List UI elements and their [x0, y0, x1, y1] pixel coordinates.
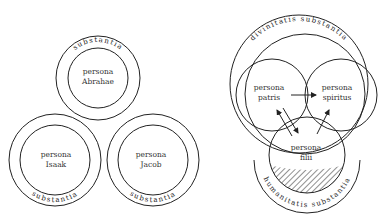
trinity-diagram: substantia persona Abrahae substantia pe… [0, 0, 391, 222]
persona-name: Isaak [46, 160, 67, 169]
filii-label: persona [291, 143, 322, 152]
persona-label: persona [41, 150, 72, 159]
person-isaak: substantia persona Isaak [9, 114, 101, 206]
substantia-label: substantia [128, 190, 177, 204]
arrow-filii-to-patris [277, 110, 292, 136]
trinity-group: divinitatis substantia humanitatis subst… [230, 15, 377, 213]
patris-label: persona [254, 83, 285, 92]
divinitatis-label: divinitatis substantia [249, 15, 350, 42]
person-abrahae: substantia persona Abrahae [56, 36, 140, 120]
persona-name: Abrahae [81, 77, 115, 86]
persona-label: persona [136, 150, 167, 159]
person-jacob: substantia persona Jacob [107, 114, 199, 206]
spiritus-name: spiritus [323, 93, 352, 102]
substantia-label: substantia [30, 190, 79, 204]
patris-name: patris [258, 93, 280, 102]
persona-label: persona [83, 67, 114, 76]
spiritus-label: persona [322, 83, 353, 92]
filii-name: filii [300, 153, 313, 162]
arrow-filii-to-spiritus [317, 110, 329, 134]
arrow-patris-to-filii [283, 108, 298, 133]
substantia-label: substantia [71, 36, 124, 52]
persona-name: Jacob [140, 160, 162, 169]
